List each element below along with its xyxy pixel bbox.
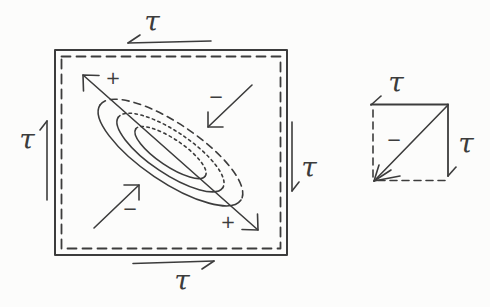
diagram-linework <box>0 0 490 307</box>
arrow-shaft <box>128 41 211 43</box>
middle-ellipse-lower-arc <box>107 117 223 205</box>
tau-label-bottom: τ <box>174 264 190 297</box>
tau-label-top: τ <box>144 5 160 38</box>
outer-ellipse-lower-arc <box>84 105 241 224</box>
tau-label-right: τ <box>301 151 317 184</box>
inset-tau-label-right: τ <box>458 127 474 160</box>
middle-ellipse-upper-arc <box>118 100 234 188</box>
inset-square <box>371 96 456 181</box>
shear-arrow-top <box>128 35 211 43</box>
minus-sign-upper-right: − <box>208 86 223 107</box>
tension-diagonal-arrow <box>83 75 258 230</box>
arrow-barb <box>292 182 299 191</box>
arrow-barb <box>202 261 214 269</box>
arrow-shaft <box>83 75 258 230</box>
arrow-barb <box>128 35 140 43</box>
shear-arrow-right <box>292 122 299 191</box>
inner-ellipse-lower-arc <box>128 129 205 187</box>
inset-right-arrow-barb <box>448 167 456 176</box>
shear-stress-diagram: τ τ τ τ + − − + τ τ − <box>0 0 490 307</box>
minus-sign-lower-left: − <box>122 198 137 219</box>
shear-arrow-left <box>40 121 47 200</box>
plus-sign-lower-right: + <box>220 211 235 232</box>
inset-tau-label-top: τ <box>388 66 404 99</box>
arrow-barb <box>40 121 47 130</box>
plus-sign-upper-left: + <box>105 67 120 88</box>
tau-label-left: τ <box>19 123 35 156</box>
inner-ellipse-upper-arc <box>136 118 213 176</box>
inset-minus-sign: − <box>386 129 401 150</box>
